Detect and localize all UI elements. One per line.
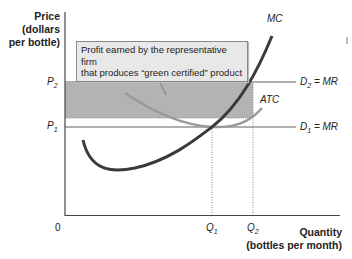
p1-tick-label: P1 [47,120,58,133]
atc-label: ATC [260,94,279,105]
x-axis-label-line2: (bottles per month) [246,239,342,252]
d2-label: D2 = MR [300,76,338,89]
callout-line1: Profit earned by the representative firm [81,44,243,67]
mc-label: MC [267,13,283,24]
q1-tick-label: Q1 [206,222,218,235]
y-axis-label-line2: (dollars [4,23,60,36]
y-axis-label-line3: per bottle) [4,36,60,49]
p2-tick-label: P2 [47,76,58,89]
x-axis-label-line1: Quantity [246,226,342,239]
callout-line2: that produces “green certified” product [81,67,243,79]
y-axis-label: Price (dollars per bottle) [4,10,60,49]
profit-callout: Profit earned by the representative firm… [76,41,248,82]
x-axis-label: Quantity (bottles per month) [246,226,342,252]
origin-label: 0 [55,222,61,233]
d1-label: D1 = MR [300,121,338,134]
y-axis-label-line1: Price [4,10,60,23]
